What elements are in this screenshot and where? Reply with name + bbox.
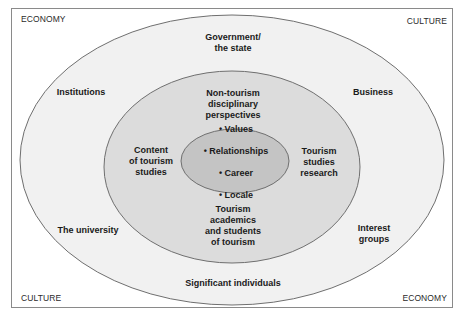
corner-label-bottom-right: ECONOMY (402, 293, 447, 303)
label-tourism-studies-research: Tourism studies research (300, 146, 338, 179)
core-item-locale: • Locale (204, 190, 269, 201)
core-item-relationships: • Relationships (204, 146, 269, 157)
corner-label-top-left: ECONOMY (21, 14, 66, 24)
label-interest-groups: Interest groups (358, 223, 391, 245)
corner-label-top-right: CULTURE (407, 16, 447, 26)
label-government: Government/ the state (205, 32, 261, 54)
label-business: Business (353, 87, 393, 98)
corner-label-bottom-left: CULTURE (21, 293, 61, 303)
core-list: • Values • Relationships • Career • Loca… (204, 113, 269, 212)
core-item-career: • Career (204, 168, 269, 179)
label-institutions: Institutions (57, 87, 106, 98)
label-significant-individuals: Significant individuals (185, 278, 281, 289)
label-content-of-tourism-studies: Content of tourism studies (129, 145, 173, 178)
core-item-values: • Values (204, 124, 269, 135)
label-university: The university (57, 225, 118, 236)
